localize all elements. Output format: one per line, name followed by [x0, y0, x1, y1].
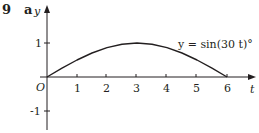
y-axis-label: y: [33, 5, 41, 18]
x-tick-label: 5: [193, 82, 200, 95]
sine-graph: 1 2 3 4 5 6 1 -1 O y t y = sin(30 t)°: [0, 0, 259, 133]
x-tick-label: 1: [74, 82, 81, 95]
x-tick-label: 3: [133, 82, 140, 95]
x-tick-label: 4: [163, 82, 170, 95]
y-axis-arrow-icon: [44, 5, 50, 13]
y-tick-label: 1: [35, 37, 42, 50]
origin-label: O: [36, 81, 45, 94]
y-tick-label: -1: [30, 105, 41, 118]
x-tick-label: 2: [103, 82, 110, 95]
x-axis-arrow-icon: [248, 74, 256, 80]
equation-label: y = sin(30 t)°: [177, 38, 253, 51]
x-tick-label: 6: [224, 82, 231, 95]
x-axis-label: t: [250, 83, 255, 96]
